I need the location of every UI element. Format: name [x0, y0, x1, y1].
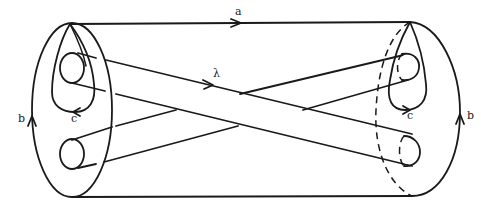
- right-end-front-arc-b: [410, 22, 460, 196]
- cylinder-diagram: a λ b c c b: [0, 0, 481, 212]
- tube-2-upper-edge-a: [72, 127, 112, 140]
- left-loop-c: [52, 24, 94, 112]
- tube-2-lower-edge-b: [104, 126, 238, 162]
- tube-1-lower-edge-b: [116, 94, 412, 166]
- label-lambda: λ: [213, 68, 220, 79]
- label-a: a: [235, 6, 242, 17]
- label-c-left: c: [71, 113, 77, 124]
- left-upper-hole: [60, 53, 84, 83]
- left-end-ellipse-b: [32, 23, 112, 197]
- tube-1-lower-edge: [72, 83, 105, 91]
- cylinder-bottom-edge: [72, 196, 412, 197]
- label-b-right: b: [467, 110, 474, 121]
- diagram-canvas: [0, 0, 481, 212]
- left-lower-hole: [60, 139, 84, 169]
- label-b-left: b: [18, 113, 25, 124]
- label-c-right: c: [407, 110, 413, 121]
- tube-1-upper-edge-b: [106, 60, 412, 134]
- tube-2-upper-edge-b: [116, 110, 176, 126]
